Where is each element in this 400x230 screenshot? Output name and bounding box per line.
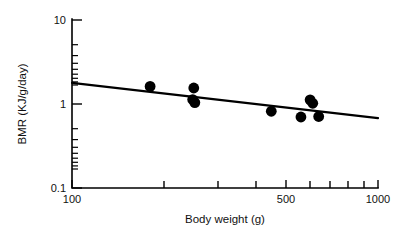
data-point [145, 81, 156, 92]
data-point [188, 83, 199, 94]
y-axis-minor-ticks [72, 45, 78, 169]
x-tick-label-100: 100 [63, 193, 81, 205]
chart-container: 10 1 0.1 100 500 1000 BMR (KJ/g/day) Bod… [0, 0, 400, 230]
x-tick-label-1000: 1000 [366, 193, 390, 205]
data-point [266, 106, 277, 117]
data-point [313, 111, 324, 122]
data-point [189, 97, 200, 108]
data-point [307, 98, 318, 109]
axis-lines [72, 19, 378, 188]
axis-frame [72, 19, 378, 188]
y-tick-label-1: 1 [60, 98, 66, 110]
x-tick-label-500: 500 [277, 193, 295, 205]
x-axis-title: Body weight (g) [185, 213, 265, 225]
regression-trend-line [72, 83, 378, 118]
y-axis-title: BMR (KJ/g/day) [16, 63, 28, 144]
bmr-vs-body-weight-scatter-plot: 10 1 0.1 100 500 1000 BMR (KJ/g/day) Bod… [0, 0, 400, 230]
x-axis-ticks [72, 180, 378, 188]
y-tick-label-10: 10 [54, 14, 66, 26]
data-point [296, 112, 307, 123]
